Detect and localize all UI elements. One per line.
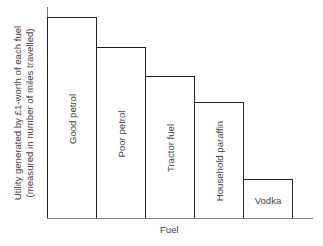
x-axis bbox=[47, 218, 313, 219]
bar: Poor petrol bbox=[96, 47, 146, 219]
bar-label: Poor petrol bbox=[116, 110, 127, 157]
bar-label: Vodka bbox=[255, 194, 282, 205]
x-axis-label: Fuel bbox=[160, 224, 179, 235]
bar: Vodka bbox=[243, 179, 293, 219]
bar: Household paraffin bbox=[194, 102, 244, 219]
y-axis-label-line1: Utility generated by £1-worth of each fu… bbox=[12, 10, 24, 216]
bar: Tractor fuel bbox=[145, 76, 195, 219]
bar-label: Household paraffin bbox=[214, 121, 225, 201]
y-axis-label: Utility generated by £1-worth of each fu… bbox=[4, 10, 44, 216]
bar-label: Tractor fuel bbox=[165, 124, 176, 172]
y-axis-label-line2: (measured in number of miles travelled) bbox=[24, 10, 36, 216]
bar: Good petrol bbox=[47, 17, 97, 219]
bar-label: Good petrol bbox=[67, 93, 78, 143]
